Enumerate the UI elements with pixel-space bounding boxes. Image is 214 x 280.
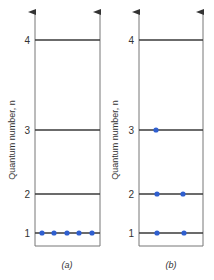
electron-dot <box>39 230 44 235</box>
electron-dot <box>181 230 186 235</box>
level-label-2: 2 <box>128 189 134 200</box>
axis-title: Quantum number, n <box>110 100 120 180</box>
caption-b: (b) <box>166 260 177 270</box>
level-label-1: 1 <box>24 228 30 239</box>
axis-title: Quantum number, n <box>7 100 17 180</box>
level-label-1: 1 <box>128 228 134 239</box>
electron-dot <box>76 230 81 235</box>
level-label-3: 3 <box>128 125 134 136</box>
electron-dot <box>154 230 159 235</box>
electron-dot <box>64 230 69 235</box>
panel-a: 4 3 2 1 Quantum number, n (a) <box>7 12 100 270</box>
level-label-2: 2 <box>24 189 30 200</box>
electron-dot <box>89 230 94 235</box>
electron-dot <box>180 191 185 196</box>
electron-dot <box>154 191 159 196</box>
energy-level-diagram: 4 3 2 1 Quantum number, n (a) 4 3 2 1 Qu… <box>0 0 214 280</box>
caption-a: (a) <box>62 260 73 270</box>
level-label-4: 4 <box>24 35 30 46</box>
electron-dot <box>51 230 56 235</box>
panel-b: 4 3 2 1 Quantum number, n (b) <box>110 12 203 270</box>
electron-dot <box>153 127 158 132</box>
level-label-4: 4 <box>128 35 134 46</box>
level-label-3: 3 <box>24 125 30 136</box>
